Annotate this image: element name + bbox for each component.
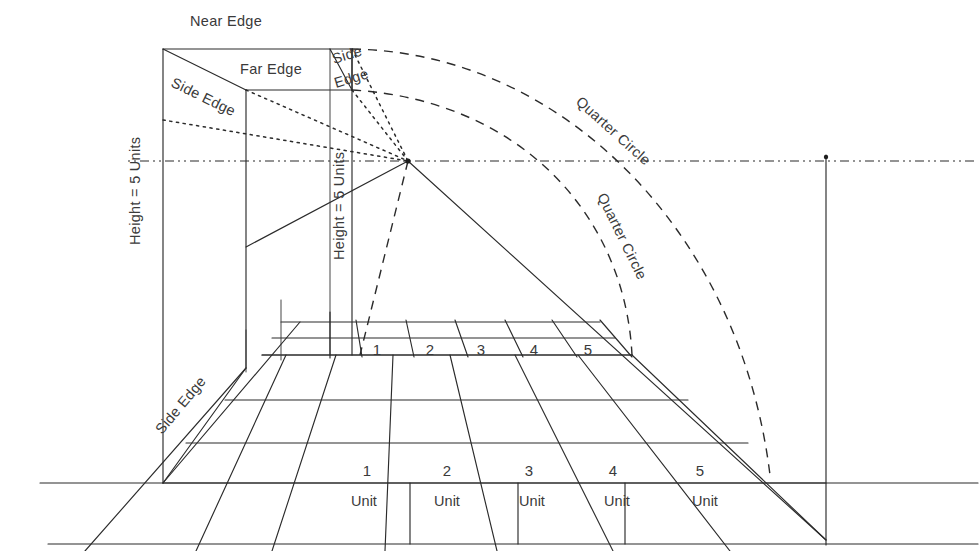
dotted-far-top-to-vp	[246, 90, 408, 161]
lower-scale-numbers: 1 2 3 4 5	[363, 462, 704, 479]
right-vertical-top-marker	[824, 155, 828, 159]
unit-label-4: Unit	[604, 493, 630, 509]
dotted-left-upper-to-vp	[163, 120, 408, 161]
lower-grid-d5	[515, 355, 613, 551]
label-side-edge-right-line2: Edge	[332, 65, 370, 91]
unit-label-5: Unit	[692, 493, 718, 509]
upper-num-4: 4	[530, 341, 538, 358]
dotted-side-top-to-vp	[352, 49, 408, 161]
lower-num-3: 3	[525, 462, 533, 479]
lower-grid-d2	[272, 355, 336, 551]
lower-grid-d1	[196, 355, 286, 551]
label-quarter-circle-lower: Quarter Circle	[594, 190, 650, 282]
lower-num-4: 4	[609, 462, 617, 479]
upper-num-5: 5	[584, 341, 592, 358]
vanishing-point-marker	[405, 158, 410, 163]
label-height-center: Height = 5 Units	[331, 152, 347, 260]
unit-label-3: Unit	[519, 493, 545, 509]
lower-num-1: 1	[363, 462, 371, 479]
unit-label-1: Unit	[351, 493, 377, 509]
quarter-circle-outer	[352, 49, 770, 475]
unit-labels: Unit Unit Unit Unit Unit	[351, 493, 718, 509]
lower-num-5: 5	[696, 462, 704, 479]
dotted-near-top-to-vp	[352, 90, 408, 161]
upper-left-verticals	[246, 300, 281, 372]
upper-num-1: 1	[373, 341, 381, 358]
lower-grid-d3	[385, 355, 393, 551]
lower-grid-d0	[85, 368, 246, 551]
lower-num-2: 2	[443, 462, 451, 479]
diagram-canvas: Near Edge Far Edge Side Edge Side Edge S…	[0, 0, 980, 551]
label-near-edge: Near Edge	[190, 13, 262, 29]
upper-num-2: 2	[426, 341, 434, 358]
label-far-edge: Far Edge	[240, 61, 302, 77]
upper-num-3: 3	[477, 341, 485, 358]
ray-vp-to-grid-dashed	[360, 161, 408, 355]
unit-label-2: Unit	[434, 493, 460, 509]
label-side-edge-bottom-left: Side Edge	[152, 373, 209, 437]
ray-vp-to-left-base	[246, 161, 408, 247]
quarter-circle-inner	[352, 90, 632, 355]
lower-grid-d7	[632, 355, 826, 540]
lower-grid-d4	[450, 355, 497, 551]
upper-grid	[262, 320, 632, 357]
quarter-circle-arcs	[352, 49, 770, 475]
label-height-left: Height = 5 Units	[127, 137, 143, 245]
